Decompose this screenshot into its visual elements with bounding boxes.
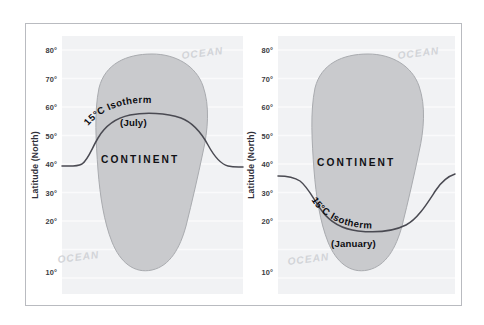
isotherm-continent-figure: OCEAN OCEAN CONTINENT 15°C Isotherm (Jul… [0, 0, 484, 325]
january-y-axis-title: Latitude (North) [246, 131, 256, 199]
january-ytick-50: 50° [262, 132, 273, 141]
july-ytick-30: 30° [46, 189, 57, 198]
july-ytick-60: 60° [46, 103, 57, 112]
july-isotherm-sublabel: (July) [120, 117, 147, 128]
figure-root: OCEAN OCEAN CONTINENT 15°C Isotherm (Jul… [0, 0, 484, 325]
july-ytick-10: 10° [46, 268, 57, 277]
january-ytick-40: 40° [262, 160, 273, 169]
january-ytick-30: 30° [262, 189, 273, 198]
july-ytick-20: 20° [46, 217, 57, 226]
july-continent-label: CONTINENT [101, 154, 179, 165]
january-ytick-20: 20° [262, 217, 273, 226]
july-ytick-50: 50° [46, 132, 57, 141]
january-ytick-80: 80° [262, 46, 273, 55]
july-ytick-70: 70° [46, 75, 57, 84]
january-isotherm-sublabel: (January) [331, 238, 376, 249]
july-ytick-80: 80° [46, 46, 57, 55]
january-ytick-10: 10° [262, 268, 273, 277]
january-continent-label: CONTINENT [317, 157, 395, 168]
july-y-axis-title: Latitude (North) [30, 131, 40, 199]
july-ytick-40: 40° [46, 160, 57, 169]
january-ytick-70: 70° [262, 75, 273, 84]
january-ytick-60: 60° [262, 103, 273, 112]
